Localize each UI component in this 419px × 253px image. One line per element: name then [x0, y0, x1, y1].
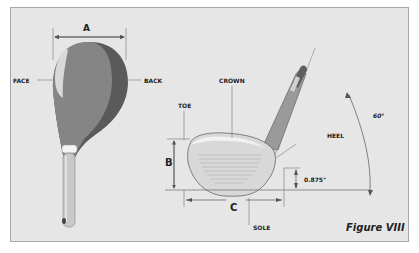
top-view-club [37, 28, 141, 227]
heel-height-value: 0.875" [304, 176, 326, 183]
dimension-b-label: B [165, 157, 173, 168]
dimension-a-label: A [83, 23, 90, 33]
lie-angle-value: 60° [373, 112, 384, 119]
crown-label: CROWN [219, 77, 245, 84]
golf-club-diagram: A FACE BACK [0, 0, 419, 253]
figure-caption: Figure VIII [346, 222, 405, 233]
toe-label: TOE [178, 102, 191, 109]
heel-label: HEEL [327, 132, 344, 139]
face-label: FACE [13, 77, 30, 84]
back-label: BACK [144, 77, 163, 84]
dimension-c-label: C [230, 202, 237, 213]
sole-label: SOLE [253, 224, 270, 231]
